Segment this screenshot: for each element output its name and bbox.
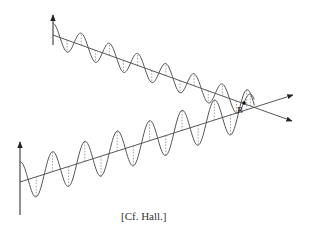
upper-wave-curve	[53, 23, 254, 113]
lower-wave-curve	[20, 90, 254, 197]
upper-wave-group	[53, 15, 292, 121]
lower-wave-group	[20, 90, 293, 215]
figure-caption: [Cf. Hall.]	[121, 210, 167, 222]
wave-diagram: B	[0, 0, 309, 239]
intersection-label: B	[237, 105, 243, 115]
